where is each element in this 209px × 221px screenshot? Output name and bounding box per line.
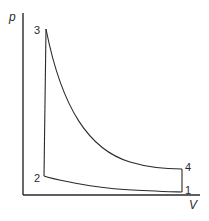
process-3-4 [46, 29, 182, 169]
x-axis-label: V [189, 198, 198, 212]
point-label-3: 3 [34, 24, 40, 36]
point-label-4: 4 [185, 161, 191, 173]
process-1-2 [44, 176, 182, 192]
point-label-2: 2 [34, 172, 40, 184]
y-axis-label: p [8, 10, 16, 24]
point-label-1: 1 [185, 184, 191, 196]
pv-diagram: p V 3 2 4 1 [0, 0, 209, 221]
process-2-3 [44, 29, 46, 176]
